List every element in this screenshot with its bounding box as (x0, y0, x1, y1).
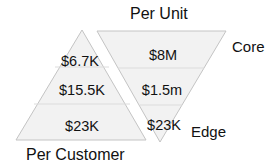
per-customer-tier-3: $23K (65, 119, 99, 134)
per-unit-tier-2: $1.5m (142, 83, 182, 98)
pyramid-diagram (0, 0, 279, 163)
edge-label: Edge (191, 124, 226, 139)
per-customer-tier-1: $6.7K (61, 54, 99, 69)
per-unit-tier-1: $8M (149, 48, 177, 63)
per-unit-tier-3: $23K (147, 118, 181, 133)
per-unit-title: Per Unit (130, 6, 188, 22)
core-label: Core (232, 39, 265, 54)
per-customer-title: Per Customer (26, 147, 125, 163)
per-customer-tier-2: $15.5K (59, 83, 105, 98)
